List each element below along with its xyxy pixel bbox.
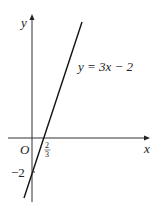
y-axis-label: y [19, 15, 27, 30]
x-intercept-numerator: 2 [45, 141, 49, 150]
x-axis-label: x [143, 141, 150, 156]
y-intercept-label: −2 [11, 165, 25, 180]
graph: y x O y = 3x − 2 −2 2 3 [0, 0, 160, 204]
y-axis-arrow-icon [30, 14, 35, 20]
origin-label: O [20, 142, 30, 157]
x-intercept-denominator: 3 [45, 150, 49, 159]
x-axis-arrow-icon [144, 136, 150, 141]
equation-label: y = 3x − 2 [76, 59, 134, 74]
